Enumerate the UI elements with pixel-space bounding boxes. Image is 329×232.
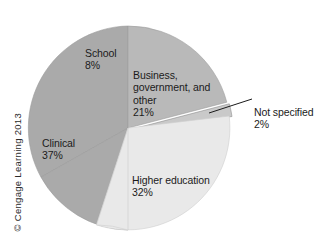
- pie-label-not-specified-name: Not specified: [254, 106, 313, 118]
- pie-chart-figure: School 8% Business, government, and othe…: [0, 0, 329, 232]
- pie-label-higher-education-value: 32%: [132, 186, 242, 199]
- pie-label-school-name: School: [85, 47, 117, 59]
- copyright-credit: © Cengage Learning 2013: [12, 90, 23, 232]
- pie-label-school-value: 8%: [85, 59, 117, 72]
- pie-label-business-government-other: Business, government, and other 21%: [133, 56, 225, 131]
- pie-label-business-government-other-value: 21%: [133, 106, 225, 119]
- pie-label-not-specified-value: 2%: [254, 118, 329, 131]
- pie-label-clinical-name: Clinical: [42, 137, 75, 149]
- pie-label-school: School 8%: [85, 34, 117, 84]
- pie-label-higher-education-name: Higher education: [132, 174, 210, 186]
- pie-label-clinical-value: 37%: [42, 149, 75, 162]
- pie-label-not-specified: Not specified 2%: [254, 93, 329, 143]
- pie-label-higher-education: Higher education 32%: [132, 161, 242, 211]
- pie-label-business-government-other-name: Business, government, and other: [133, 69, 210, 106]
- pie-label-clinical: Clinical 37%: [42, 124, 75, 174]
